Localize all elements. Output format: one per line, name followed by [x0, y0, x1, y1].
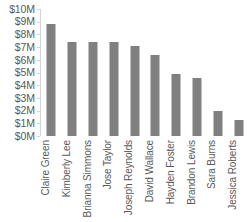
- y-axis-tick: [37, 98, 40, 99]
- bar[interactable]: [192, 78, 201, 136]
- x-tick-label: David Wallace: [145, 140, 166, 202]
- bar[interactable]: [47, 24, 56, 136]
- bar-slot: [187, 9, 208, 136]
- y-tick-label: $1M: [15, 118, 35, 129]
- bar-chart: $10M$9M$8M$7M$6M$5M$4M$3M$2M$1M$0M Clair…: [0, 0, 250, 222]
- bar-slot: [145, 9, 166, 136]
- x-tick-label: Claire Green: [41, 140, 62, 196]
- y-tick-label: $4M: [15, 80, 35, 91]
- bar[interactable]: [68, 42, 77, 136]
- y-axis-tick: [37, 85, 40, 86]
- x-tick-label: Jose Taylor: [103, 140, 124, 189]
- bar[interactable]: [172, 74, 181, 136]
- x-axis: Claire GreenKimberly LeeBrianna SimmonsJ…: [41, 136, 249, 222]
- bar[interactable]: [151, 55, 160, 136]
- x-tick-label: Brandon Lewis: [187, 140, 208, 205]
- bar[interactable]: [234, 120, 243, 137]
- bar-slot: [228, 9, 249, 136]
- y-tick-label: $0M: [15, 131, 35, 142]
- bar-slot: [62, 9, 83, 136]
- y-axis: $10M$9M$8M$7M$6M$5M$4M$3M$2M$1M$0M: [0, 3, 37, 139]
- bar-slot: [166, 9, 187, 136]
- y-axis-tick: [37, 47, 40, 48]
- bar[interactable]: [109, 42, 118, 136]
- y-axis-tick: [37, 73, 40, 74]
- y-axis-tick: [37, 60, 40, 61]
- y-tick-label: $10M: [9, 4, 35, 15]
- y-axis-tick: [37, 136, 40, 137]
- x-tick-label: Brianna Simmons: [83, 140, 104, 217]
- y-tick-label: $2M: [15, 105, 35, 116]
- y-tick-label: $8M: [15, 29, 35, 40]
- x-tick-label: Hayden Foster: [166, 140, 187, 204]
- x-tick-label: Sara Burns: [207, 140, 228, 189]
- bar-slot: [207, 9, 228, 136]
- x-tick-label: Joseph Reynolds: [124, 140, 145, 215]
- y-tick-label: $9M: [15, 16, 35, 27]
- y-tick-label: $3M: [15, 93, 35, 104]
- y-tick-label: $5M: [15, 67, 35, 78]
- bar-slot: [83, 9, 104, 136]
- y-axis-tick: [37, 111, 40, 112]
- y-axis-tick: [37, 123, 40, 124]
- bar[interactable]: [130, 46, 139, 136]
- x-tick-label: Jessica Roberts: [228, 140, 249, 210]
- bar[interactable]: [88, 42, 97, 136]
- bar-slot: [103, 9, 124, 136]
- x-tick-label: Kimberly Lee: [62, 140, 83, 197]
- y-axis-tick: [37, 22, 40, 23]
- bar-slot: [41, 9, 62, 136]
- y-tick-label: $6M: [15, 55, 35, 66]
- plot-area: [41, 9, 249, 136]
- y-axis-tick: [37, 9, 40, 10]
- y-tick-label: $7M: [15, 42, 35, 53]
- y-axis-tick: [37, 34, 40, 35]
- bar[interactable]: [213, 111, 222, 136]
- bar-slot: [124, 9, 145, 136]
